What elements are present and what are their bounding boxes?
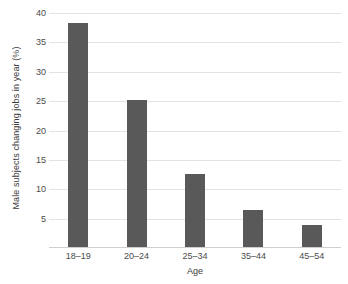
bar <box>127 100 147 247</box>
y-axis-tick-label: 25 <box>22 96 46 106</box>
x-axis-title: Age <box>49 266 341 276</box>
x-axis-tick-label: 20–24 <box>124 251 149 261</box>
bar <box>302 225 322 247</box>
plot-area <box>49 13 341 248</box>
bar <box>243 210 263 247</box>
x-axis-tick-label: 25–34 <box>182 251 207 261</box>
x-axis-tick-label-group: 18–1920–2425–3435–4445–54 <box>49 251 341 265</box>
x-axis-tick-label: 35–44 <box>241 251 266 261</box>
y-axis-tick-label: 10 <box>22 184 46 194</box>
x-axis-tick-label: 18–19 <box>66 251 91 261</box>
bar <box>185 174 205 247</box>
bar-chart-figure: Male subjects changing jobs in year (%) … <box>0 0 348 284</box>
bars-layer <box>49 13 341 248</box>
y-axis-tick-label: 20 <box>22 126 46 136</box>
bar <box>68 23 88 247</box>
y-axis-tick-label: 5 <box>22 214 46 224</box>
y-axis-tick-label: 40 <box>22 8 46 18</box>
x-axis-tick-label: 45–54 <box>299 251 324 261</box>
y-axis-tick-label: 30 <box>22 67 46 77</box>
y-axis-tick-label: 15 <box>22 155 46 165</box>
y-axis-tick-label-group: 510152025303540 <box>22 0 46 284</box>
y-axis-tick-label: 35 <box>22 37 46 47</box>
